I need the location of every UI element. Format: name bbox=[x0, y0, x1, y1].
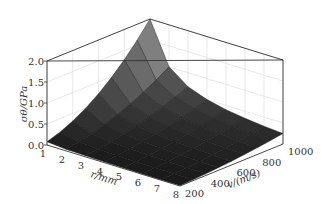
x-tick-label: 1 bbox=[40, 148, 46, 159]
z-tick-label: 2.0 bbox=[28, 56, 44, 67]
x-axis-label: r/mm bbox=[89, 168, 118, 186]
z-tick-label: 1.5 bbox=[28, 77, 44, 88]
x-tick-label: 2 bbox=[59, 154, 65, 165]
z-tick-label: 0.5 bbox=[28, 119, 44, 130]
z-tick-label: 1.0 bbox=[28, 98, 44, 109]
x-tick-label: 7 bbox=[154, 183, 160, 194]
y-tick-label: 200 bbox=[185, 188, 204, 199]
y-tick-label: 1000 bbox=[288, 146, 313, 157]
z-axis-label: σθ/GPa bbox=[18, 86, 29, 122]
x-tick-label: 3 bbox=[78, 160, 84, 171]
x-tick-label: 8 bbox=[173, 189, 179, 200]
x-tick-label: 6 bbox=[135, 177, 141, 188]
surface-chart: 0.00.51.01.52.0123456782004006008001000 … bbox=[0, 0, 321, 204]
surface-plot: 0.00.51.01.52.0123456782004006008001000 … bbox=[0, 0, 321, 204]
y-tick-label: 800 bbox=[262, 157, 281, 168]
